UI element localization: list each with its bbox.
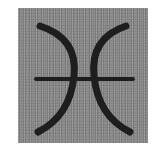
- pisces-symbol-tile: [18, 8, 148, 143]
- pisces-icon: [18, 8, 148, 143]
